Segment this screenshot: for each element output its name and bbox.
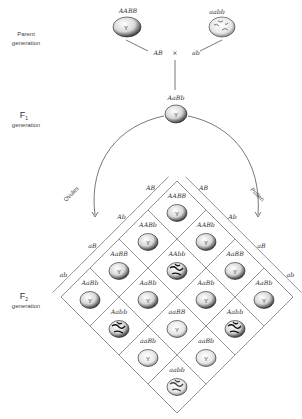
cell-genotype: AaBb [255,279,273,286]
pollen-label: Pollen [249,186,265,202]
cell-genotype: aaBB [169,308,186,315]
cell-genotype: AABb [196,221,215,228]
connector-line [126,40,148,51]
cell-genotype: AaBb [81,279,99,286]
parent-1-genotype: AABB [118,7,138,14]
punnett-cell: Aabb [109,308,129,338]
punnett-cell: aaBbY [138,337,158,367]
parent-generation-label-2: generation [12,40,40,46]
parent-generation-label: Parent [17,31,35,37]
f1-genotype: AaBb [167,94,185,101]
pollen-gamete-label: AB [198,184,209,191]
parent-2-genotype: aabb [209,8,225,15]
svg-text:Y: Y [146,298,150,304]
cell-genotype: Aabb [110,308,127,315]
punnett-cell: aaBbY [196,337,216,367]
punnett-cell: AABbY [138,221,158,251]
pollen-gamete-label: Ab [227,213,237,220]
punnett-cell: AaBbY [138,279,158,309]
connector-line [200,40,222,51]
parent-2-gamete: ab [192,49,200,56]
punnett-cell: aabb [167,366,187,396]
ovule-gamete-label: aB [88,242,97,249]
f2-generation-label-2: generation [12,303,40,309]
yellow-round-seed-icon: Y [113,17,141,37]
svg-text:Y: Y [88,298,92,304]
punnett-cell: AaBbY [80,279,100,309]
svg-text:Y: Y [233,269,237,275]
cell-genotype: AABB [167,192,187,199]
punnett-cell: AABbY [196,221,216,251]
punnett-cell: Aabb [225,308,245,338]
svg-text:Y: Y [204,298,208,304]
cell-genotype: AaBB [109,250,128,257]
punnett-cell: AaBBY [109,250,129,280]
parent-1-gamete: AB [152,49,163,56]
punnett-cell: AaBbY [254,279,274,309]
svg-text:Y: Y [146,356,150,362]
ovule-gamete-label: AB [145,184,156,191]
f1-yellow-round-seed-icon: Y [165,105,187,123]
svg-text:Y: Y [117,269,121,275]
pollen-arrow-arc [188,116,258,215]
dihybrid-cross-diagram: Parent generation F1 generation F2 gener… [0,0,302,419]
svg-text:Y: Y [174,112,178,118]
svg-text:Y: Y [175,327,179,333]
svg-text:Y: Y [175,211,179,217]
svg-text:Y: Y [124,25,128,31]
diagram-canvas: Parent generation F1 generation F2 gener… [0,0,302,419]
cell-genotype: AABb [138,221,157,228]
cell-genotype: Aabb [226,308,243,315]
punnett-square: ABAbaBabABAbaBabAABBYAABbYAaBBYAaBbYAABb… [53,177,302,413]
punnett-cell: aaBBY [167,308,187,338]
ovule-arrow-arc [94,116,164,215]
cell-genotype: aabb [169,366,185,373]
punnett-cell: AaBbY [196,279,216,309]
ovule-gamete-label: ab [60,271,68,278]
ovule-gamete-label: Ab [116,213,126,220]
punnett-cell: AABBY [167,192,187,222]
cell-genotype: aaBb [198,337,214,344]
svg-text:Y: Y [146,240,150,246]
punnett-cell: AAbb [167,250,187,280]
cell-genotype: AaBb [139,279,157,286]
cross-symbol: × [172,49,177,56]
green-wrinkled-seed-icon [209,17,235,37]
punnett-cell: AaBBY [225,250,245,280]
ovules-label: Ovules [62,185,79,202]
svg-text:Y: Y [204,240,208,246]
pollen-gamete-label: ab [287,271,295,278]
cell-genotype: aaBb [140,337,156,344]
svg-text:Y: Y [262,298,266,304]
f2-generation-label: F2 [20,291,29,302]
f1-generation-label-2: generation [12,122,40,128]
svg-text:Y: Y [204,356,208,362]
cell-genotype: AaBB [225,250,244,257]
cell-genotype: AAbb [167,250,185,257]
pollen-gamete-label: aB [257,242,266,249]
f1-generation-label: F1 [20,110,29,121]
cell-genotype: AaBb [197,279,215,286]
